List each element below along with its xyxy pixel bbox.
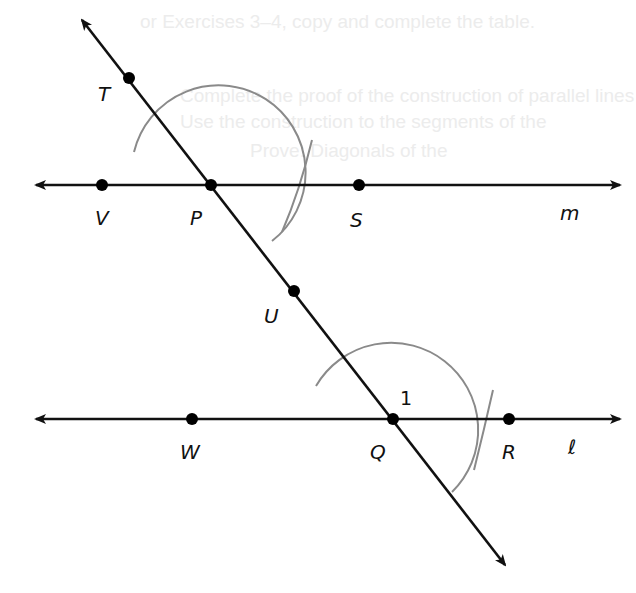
point-p [205, 179, 217, 191]
arc-cross-l [474, 390, 493, 470]
point-w [186, 413, 198, 425]
label-q: Q [370, 440, 386, 464]
bleed-line-1: or Exercises 3–4, copy and complete the … [140, 11, 535, 32]
label-u: U [264, 304, 279, 328]
point-t [123, 72, 135, 84]
label-s: S [350, 208, 363, 232]
point-r [503, 413, 515, 425]
arc-at-p [134, 85, 306, 241]
label-v: V [95, 206, 110, 230]
point-q [387, 413, 399, 425]
label-l: ℓ [567, 435, 576, 459]
point-u [288, 285, 300, 297]
bleed-line-2: Complete the proof of the construction o… [180, 85, 634, 106]
bleed-line-4: Prove: Diagonals of the [250, 140, 448, 161]
label-m: m [560, 201, 579, 225]
label-t: T [98, 82, 112, 106]
bleed-line-3: Use the construction to the segments of … [180, 111, 546, 132]
label-w: W [180, 440, 201, 464]
point-v [96, 179, 108, 191]
geometry-diagram: or Exercises 3–4, copy and complete the … [0, 0, 636, 593]
point-s [353, 179, 365, 191]
label-r: R [502, 440, 516, 464]
label-angle-1: 1 [400, 387, 412, 409]
label-p: P [190, 206, 203, 230]
